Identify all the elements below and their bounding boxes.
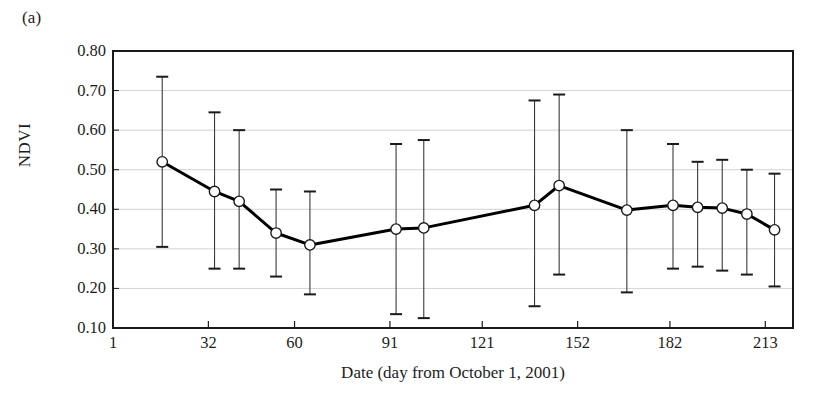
data-point-marker xyxy=(622,205,632,215)
data-point-marker xyxy=(419,223,429,233)
error-bars xyxy=(156,77,780,318)
data-point-marker xyxy=(717,203,727,213)
data-point-marker xyxy=(157,157,167,167)
data-point-marker xyxy=(391,224,401,234)
x-tick-label: 91 xyxy=(360,333,420,353)
x-tick-label: 60 xyxy=(265,333,325,353)
data-point-markers xyxy=(157,157,780,250)
data-point-marker xyxy=(529,200,539,210)
x-axis-title: Date (day from October 1, 2001) xyxy=(113,363,793,383)
x-tick-label: 121 xyxy=(452,333,512,353)
data-point-marker xyxy=(271,228,281,238)
data-point-marker xyxy=(305,240,315,250)
series-line xyxy=(162,162,774,245)
x-axis-ticks xyxy=(113,321,765,328)
data-point-marker xyxy=(769,225,779,235)
data-point-marker xyxy=(209,186,219,196)
x-tick-label: 32 xyxy=(178,333,238,353)
x-tick-label: 182 xyxy=(640,333,700,353)
data-point-marker xyxy=(234,196,244,206)
data-point-marker xyxy=(742,209,752,219)
x-tick-label: 1 xyxy=(83,333,143,353)
data-point-marker xyxy=(692,202,702,212)
figure-panel-a: (a) NDVI 0.800.700.600.500.400.300.200.1… xyxy=(0,0,814,408)
x-tick-label: 213 xyxy=(735,333,795,353)
data-point-marker xyxy=(554,180,564,190)
data-point-marker xyxy=(668,200,678,210)
x-tick-label: 152 xyxy=(548,333,608,353)
